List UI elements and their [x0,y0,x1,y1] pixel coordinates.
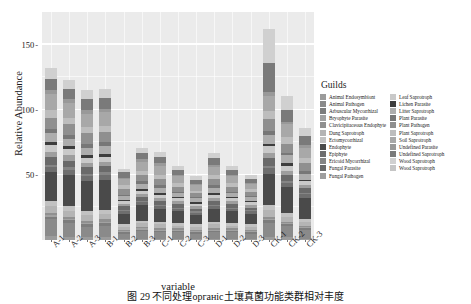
bar-segment [63,139,75,147]
legend-swatch [320,94,326,100]
bar-B-3[interactable] [136,148,148,240]
bar-D-1[interactable] [208,153,220,240]
legend-item[interactable]: Fungal Pathogen [320,172,386,179]
legend-item-label: Wood Saprotroph [399,165,435,171]
legend-column-1: Animal EndosymbiontAnimal PathogenArbusc… [320,93,386,179]
bar-series-container [42,12,314,240]
legend-item[interactable]: Undefined Parasite [390,143,444,150]
legend-item[interactable]: Animal Endosymbiont [320,93,386,100]
plot-area [42,12,314,240]
legend-item[interactable]: Plant Pathogen [390,122,444,129]
legend-item-label: Wood Saprotroph [399,158,435,164]
y-tick: 150- [21,40,38,50]
bar-A-3[interactable] [81,90,93,240]
legend-item[interactable]: Epiphyte [320,151,386,158]
legend-swatch [390,94,396,100]
bar-segment [81,148,93,156]
legend-swatch [320,173,326,179]
bar-B-1[interactable] [99,89,111,240]
legend-item[interactable]: Undefined Saprotroph [390,151,444,158]
bar-D-3[interactable] [245,175,257,240]
legend-item-label: Plant Pathogen [399,122,430,128]
legend-swatch [390,144,396,150]
legend-item[interactable]: Soil Saprotroph [390,136,444,143]
bar-segment [45,157,57,165]
bar-C-3[interactable] [190,176,202,240]
y-tick-text: 150 [21,40,34,50]
bar-segment [190,215,202,224]
bar-A-2[interactable] [63,80,75,240]
legend-item-label: Animal Endosymbiont [329,94,375,100]
legend-column-2: Leaf SaprotrophLichen ParasiteLitter Sap… [390,93,444,179]
y-tick-text: 100 [21,105,34,115]
bar-A-1[interactable] [45,68,57,240]
bar-segment [63,80,75,89]
legend-swatch [320,151,326,157]
legend-item[interactable]: Ectomycorrhizal [320,136,386,143]
bar-CK-3[interactable] [299,128,311,240]
bar-segment [281,110,293,122]
legend-item[interactable]: Ericoid Mycorrhizal [320,158,386,165]
legend-item-label: Plant Saprotroph [399,130,433,136]
legend-item[interactable]: Lichen Parasite [390,100,444,107]
bar-C-2[interactable] [172,166,184,240]
legend-item[interactable]: Animal Pathogen [320,100,386,107]
legend-item[interactable]: Wood Saprotroph [390,165,444,172]
legend-item-label: Arbuscular Mycorrhizal [329,108,378,114]
y-axis: Relative Abundance 50-100-150- [0,12,42,240]
legend-item-label: Animal Pathogen [329,101,364,107]
y-tick-mark: - [35,170,38,180]
legend-item[interactable]: Plant Parasite [390,115,444,122]
legend-item-label: Lichen Parasite [399,101,430,107]
bar-B-2[interactable] [118,169,130,241]
legend-item[interactable]: Endophyte [320,143,386,150]
legend-item[interactable]: Arbuscular Mycorrhizal [320,107,386,114]
bar-segment [136,205,148,221]
legend-swatch [390,101,396,107]
legend-item-label: Fungal Parasite [329,165,360,171]
y-tick: 50- [26,170,38,180]
legend-swatch [390,151,396,157]
legend-swatch [390,122,396,128]
bar-segment [281,155,293,163]
bar-segment [99,146,111,154]
y-tick-text: 50 [26,170,35,180]
legend-swatch [320,115,326,121]
bar-segment [154,166,166,175]
legend-swatch [390,137,396,143]
bar-C-1[interactable] [154,152,166,240]
legend-item[interactable]: Fungal Parasite [320,165,386,172]
legend-item[interactable]: Plant Saprotroph [390,129,444,136]
bar-segment [81,99,93,109]
bar-segment [136,162,148,171]
legend-item[interactable]: Leaf Saprotroph [390,93,444,100]
legend-title: Guilds [321,80,470,90]
bar-segment [299,163,311,171]
figure-root: Relative Abundance 50-100-150- A-1A-2A-3… [0,0,471,304]
legend-item[interactable]: Bryophyte Parasite [320,115,386,122]
legend-item[interactable]: Dung Saprotroph [320,129,386,136]
legend-item[interactable]: Litter Saprotroph [390,107,444,114]
bar-segment [81,181,93,211]
bar-segment [81,90,93,99]
bar-D-2[interactable] [226,166,238,240]
bar-segment [45,133,57,142]
bar-CK-1[interactable] [263,29,275,240]
legend-swatch [320,130,326,136]
legend-item[interactable]: Clavicipitaceous Endophyte [320,122,386,129]
bar-segment [63,103,75,117]
bar-CK-2[interactable] [281,96,293,240]
legend-swatch [320,108,326,114]
legend-item-label: Soil Saprotroph [399,137,431,143]
legend-item-label: Dung Saprotroph [329,130,364,136]
bar-segment [245,214,257,224]
y-tick: 100- [21,105,38,115]
legend-item[interactable]: Wood Saprotroph [390,158,444,165]
bar-segment [99,132,111,142]
bar-segment [99,98,111,108]
bar-segment [208,209,220,222]
bar-segment [263,63,275,92]
bar-segment [299,136,311,145]
legend-item-label: Litter Saprotroph [399,108,434,114]
legend-item-label: Fungal Pathogen [329,173,363,179]
